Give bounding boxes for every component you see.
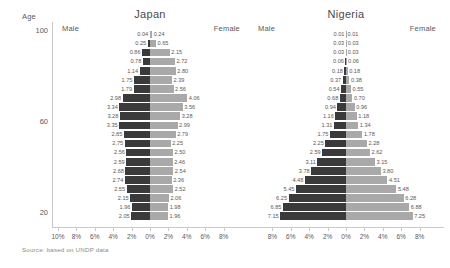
bar-male bbox=[337, 103, 346, 111]
bar-rows: 0.040.240.250.650.862.150.782.721.142.80… bbox=[52, 30, 248, 221]
bar-value-female: 1.78 bbox=[364, 130, 375, 138]
bar-female bbox=[150, 49, 170, 57]
bar-male bbox=[125, 176, 150, 184]
bar-male bbox=[140, 67, 150, 75]
table-row: 3.113.15 bbox=[248, 157, 444, 166]
bar-value-female: 2.50 bbox=[175, 148, 186, 156]
y-axis-title: Age bbox=[22, 12, 36, 21]
bar-male bbox=[289, 194, 347, 202]
bar-value-male: 0.37 bbox=[330, 76, 341, 84]
bar-value-female: 1.96 bbox=[170, 212, 181, 220]
bar-female bbox=[150, 131, 176, 139]
bar-value-female: 2.39 bbox=[173, 76, 184, 84]
table-row: 2.984.06 bbox=[52, 94, 248, 103]
bar-value-female: 1.34 bbox=[360, 121, 371, 129]
bar-value-male: 5.45 bbox=[283, 185, 294, 193]
bar-value-female: 0.06 bbox=[348, 57, 359, 65]
bar-female bbox=[346, 212, 413, 220]
bar-value-male: 3.78 bbox=[299, 167, 310, 175]
bar-male bbox=[296, 185, 346, 193]
bar-value-female: 4.06 bbox=[189, 94, 200, 102]
bar-male bbox=[126, 158, 150, 166]
bar-value-female: 0.96 bbox=[356, 103, 367, 111]
table-row: 7.157.25 bbox=[248, 212, 444, 221]
bar-value-male: 1.96 bbox=[120, 203, 131, 211]
bar-value-female: 2.79 bbox=[177, 130, 188, 138]
bar-value-male: 0.86 bbox=[130, 48, 141, 56]
bar-value-male: 0.68 bbox=[327, 94, 338, 102]
table-row: 1.751.78 bbox=[248, 130, 444, 139]
bar-value-female: 0.38 bbox=[351, 76, 362, 84]
y-tick-100: 100 bbox=[14, 26, 48, 35]
bar-male bbox=[280, 212, 346, 220]
table-row: 3.343.56 bbox=[52, 103, 248, 112]
table-row: 2.682.54 bbox=[52, 166, 248, 175]
bar-male bbox=[283, 203, 346, 211]
bar-male bbox=[325, 140, 346, 148]
bar-value-female: 0.18 bbox=[349, 67, 360, 75]
table-row: 2.562.50 bbox=[52, 148, 248, 157]
bar-value-female: 2.56 bbox=[175, 85, 186, 93]
chart-canvas: Age 1006020 10%8%6%4%2%0%2%4%6%8%8%6%4%2… bbox=[0, 0, 450, 268]
bar-value-female: 2.72 bbox=[177, 57, 188, 65]
table-row: 5.455.48 bbox=[248, 185, 444, 194]
table-row: 1.311.34 bbox=[248, 121, 444, 130]
bar-value-female: 0.55 bbox=[353, 85, 364, 93]
table-row: 2.051.96 bbox=[52, 212, 248, 221]
bar-male bbox=[317, 158, 346, 166]
bar-male bbox=[124, 131, 150, 139]
table-row: 6.256.28 bbox=[248, 194, 444, 203]
bar-value-male: 1.31 bbox=[322, 121, 333, 129]
bar-value-male: 0.06 bbox=[333, 57, 344, 65]
bar-value-female: 2.15 bbox=[171, 48, 182, 56]
table-row: 0.010.01 bbox=[248, 30, 444, 39]
bar-male bbox=[335, 112, 346, 120]
bar-female bbox=[346, 158, 375, 166]
bar-female bbox=[346, 176, 387, 184]
bar-male bbox=[131, 212, 150, 220]
table-row: 0.782.72 bbox=[52, 57, 248, 66]
table-row: 0.370.38 bbox=[248, 75, 444, 84]
bar-female bbox=[150, 58, 175, 66]
bar-male bbox=[305, 176, 346, 184]
bar-female bbox=[346, 131, 362, 139]
bar-value-female: 2.46 bbox=[174, 158, 185, 166]
table-row: 2.152.06 bbox=[52, 194, 248, 203]
table-row: 2.592.62 bbox=[248, 148, 444, 157]
bar-value-female: 2.80 bbox=[177, 67, 188, 75]
bar-value-female: 3.28 bbox=[182, 112, 193, 120]
bar-female bbox=[150, 31, 152, 39]
bar-value-female: 0.03 bbox=[348, 48, 359, 56]
y-tick-20: 20 bbox=[14, 208, 48, 217]
bar-female bbox=[346, 94, 352, 102]
bar-rows: 0.010.010.030.030.030.030.060.060.180.18… bbox=[248, 30, 444, 221]
bar-value-female: 2.25 bbox=[172, 139, 183, 147]
bar-value-female: 2.52 bbox=[175, 185, 186, 193]
bar-value-female: 3.56 bbox=[184, 103, 195, 111]
table-row: 1.961.98 bbox=[52, 203, 248, 212]
bar-value-male: 2.85 bbox=[111, 130, 122, 138]
bar-female bbox=[150, 212, 168, 220]
bar-value-male: 0.78 bbox=[130, 57, 141, 65]
table-row: 3.283.28 bbox=[52, 112, 248, 121]
table-row: 0.540.55 bbox=[248, 85, 444, 94]
y-tick-60: 60 bbox=[14, 117, 48, 126]
bar-value-male: 2.25 bbox=[313, 139, 324, 147]
table-row: 2.592.46 bbox=[52, 157, 248, 166]
bar-value-male: 0.03 bbox=[333, 39, 344, 47]
bar-value-female: 2.99 bbox=[179, 121, 190, 129]
bar-male bbox=[119, 103, 150, 111]
bar-female bbox=[150, 149, 173, 157]
bar-female bbox=[150, 94, 187, 102]
bar-value-female: 4.51 bbox=[389, 176, 400, 184]
bar-female bbox=[346, 149, 370, 157]
bar-value-male: 1.75 bbox=[318, 130, 329, 138]
bar-value-male: 0.03 bbox=[333, 48, 344, 56]
bar-value-female: 0.70 bbox=[354, 94, 365, 102]
table-row: 2.742.36 bbox=[52, 176, 248, 185]
bar-female bbox=[346, 140, 367, 148]
table-row: 4.484.51 bbox=[248, 176, 444, 185]
panel-japan: JapanMaleFemale0.040.240.250.650.862.150… bbox=[52, 0, 248, 268]
bar-female bbox=[346, 103, 355, 111]
bar-female bbox=[150, 40, 156, 48]
